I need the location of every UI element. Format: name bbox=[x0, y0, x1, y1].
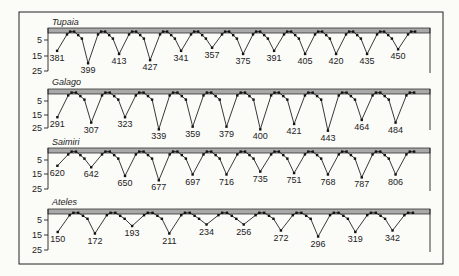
data-point bbox=[370, 212, 372, 214]
panel-title: Tupaia bbox=[52, 17, 79, 27]
data-point bbox=[180, 214, 182, 216]
data-point bbox=[151, 157, 153, 159]
data-point bbox=[77, 212, 79, 214]
data-point bbox=[342, 215, 344, 217]
data-point bbox=[270, 153, 272, 155]
data-point bbox=[114, 212, 116, 214]
data-point bbox=[205, 223, 207, 225]
data-point bbox=[75, 150, 77, 152]
data-point bbox=[67, 153, 69, 155]
data-point bbox=[341, 150, 343, 152]
data-point bbox=[350, 154, 352, 156]
data-point bbox=[210, 91, 212, 93]
data-point bbox=[410, 30, 412, 32]
data-point bbox=[221, 212, 223, 214]
data-point bbox=[259, 30, 261, 32]
data-point bbox=[379, 91, 381, 93]
trough-label: 193 bbox=[125, 228, 140, 238]
data-point bbox=[258, 212, 260, 214]
data-point bbox=[87, 62, 89, 64]
data-point bbox=[376, 33, 378, 35]
data-point bbox=[206, 91, 208, 93]
data-point bbox=[168, 94, 170, 96]
data-point bbox=[172, 91, 174, 93]
data-point bbox=[337, 212, 339, 214]
data-point bbox=[181, 95, 183, 97]
data-point bbox=[106, 214, 108, 216]
data-point bbox=[282, 154, 284, 156]
trough-label: 150 bbox=[50, 234, 65, 244]
data-point bbox=[270, 94, 272, 96]
data-point bbox=[397, 48, 399, 50]
trough-label: 381 bbox=[50, 53, 65, 63]
data-point bbox=[371, 153, 373, 155]
data-point bbox=[104, 91, 106, 93]
data-point bbox=[305, 215, 307, 217]
data-point bbox=[172, 150, 174, 152]
data-point bbox=[321, 30, 323, 32]
data-point bbox=[184, 212, 186, 214]
data-point bbox=[259, 170, 261, 172]
trough-label: 379 bbox=[219, 129, 234, 139]
trough-label: 427 bbox=[143, 62, 158, 72]
data-point bbox=[181, 154, 183, 156]
y-tick-label: 5 bbox=[37, 35, 42, 45]
data-point bbox=[252, 33, 254, 35]
data-point bbox=[174, 37, 176, 39]
data-point bbox=[345, 33, 347, 35]
data-point bbox=[104, 150, 106, 152]
data-point bbox=[193, 30, 195, 32]
trough-label: 211 bbox=[162, 236, 176, 246]
data-point bbox=[252, 98, 254, 100]
data-point bbox=[403, 214, 405, 216]
data-point bbox=[286, 30, 288, 32]
data-point bbox=[327, 130, 329, 132]
panels: Tupaia5152538139941342734135737539140542… bbox=[32, 17, 430, 255]
data-point bbox=[211, 47, 213, 49]
data-point bbox=[156, 215, 158, 217]
data-point bbox=[388, 157, 390, 159]
data-point bbox=[282, 95, 284, 97]
data-point bbox=[254, 214, 256, 216]
panel-title: Galago bbox=[52, 77, 81, 87]
data-point bbox=[190, 33, 192, 35]
y-tick-label: 25 bbox=[32, 184, 42, 194]
trough-label: 323 bbox=[118, 119, 133, 129]
data-point bbox=[170, 34, 172, 36]
data-point bbox=[135, 153, 137, 155]
trough-label: 319 bbox=[348, 234, 363, 244]
data-point bbox=[309, 218, 311, 220]
data-point bbox=[248, 95, 250, 97]
data-point bbox=[278, 150, 280, 152]
data-point bbox=[391, 229, 393, 231]
trough-label: 421 bbox=[287, 126, 302, 136]
trough-label: 256 bbox=[236, 227, 251, 237]
data-point bbox=[108, 34, 110, 36]
panel-title: Saimiri bbox=[52, 137, 81, 147]
data-point bbox=[244, 91, 246, 93]
data-point bbox=[214, 154, 216, 156]
data-point bbox=[224, 30, 226, 32]
data-point bbox=[243, 223, 245, 225]
data-point bbox=[205, 37, 207, 39]
data-point bbox=[371, 94, 373, 96]
data-point bbox=[117, 157, 119, 159]
data-point bbox=[273, 50, 275, 52]
data-point bbox=[100, 30, 102, 32]
data-point bbox=[335, 53, 337, 55]
panel-title: Ateles bbox=[51, 197, 78, 207]
trough-label: 307 bbox=[84, 125, 99, 135]
data-point bbox=[263, 212, 265, 214]
data-line bbox=[57, 152, 414, 181]
panel-galago: Galago5152529130732333935937940042144346… bbox=[32, 77, 430, 143]
trough-label: 400 bbox=[253, 131, 268, 141]
data-point bbox=[414, 30, 416, 32]
data-point bbox=[202, 94, 204, 96]
data-point bbox=[273, 150, 275, 152]
data-point bbox=[388, 98, 390, 100]
trough-label: 413 bbox=[112, 56, 127, 66]
data-point bbox=[90, 166, 92, 168]
data-point bbox=[412, 212, 414, 214]
data-point bbox=[176, 91, 178, 93]
trough-label: 357 bbox=[205, 50, 220, 60]
